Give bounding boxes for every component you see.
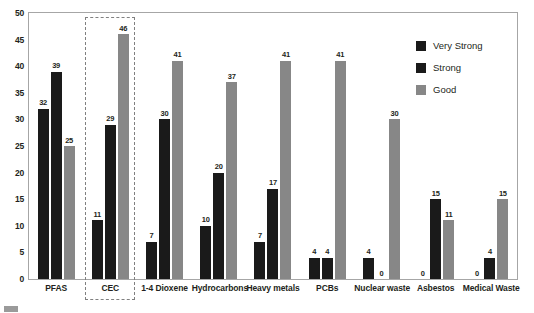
bar-slot: 0 bbox=[376, 13, 387, 279]
bar[interactable] bbox=[200, 226, 211, 279]
x-axis-label-hydrocarbons: Hydrocarbons bbox=[192, 283, 246, 293]
bar-slot: 4 bbox=[322, 13, 333, 279]
bar-value-label: 46 bbox=[119, 24, 127, 33]
bar-slot: 41 bbox=[280, 13, 291, 279]
bar-group-bars: 4030 bbox=[354, 13, 408, 279]
y-axis-tick-40: 40 bbox=[0, 61, 24, 71]
bar-group: 4030 bbox=[354, 13, 408, 279]
bar-group: 73041 bbox=[137, 13, 191, 279]
bar-group: 71741 bbox=[246, 13, 300, 279]
bar-value-label: 0 bbox=[421, 269, 425, 278]
bar-slot: 25 bbox=[64, 13, 75, 279]
bar-value-label: 11 bbox=[445, 210, 453, 219]
bar[interactable] bbox=[335, 61, 346, 279]
bar-slot: 4 bbox=[363, 13, 374, 279]
bar-slot: 11 bbox=[92, 13, 103, 279]
bar-group: 323925 bbox=[29, 13, 83, 279]
bar-slot: 30 bbox=[389, 13, 400, 279]
bar[interactable] bbox=[497, 199, 508, 279]
bar[interactable] bbox=[146, 242, 157, 279]
x-axis-label-pcbs: PCBs bbox=[300, 283, 354, 293]
y-axis-tick-25: 25 bbox=[0, 141, 24, 151]
bar-slot: 41 bbox=[335, 13, 346, 279]
bar-slot: 37 bbox=[226, 13, 237, 279]
bar[interactable] bbox=[226, 82, 237, 279]
bar-group-bars: 112946 bbox=[83, 13, 137, 279]
y-axis-tick-45: 45 bbox=[0, 35, 24, 45]
bar-slot: 7 bbox=[254, 13, 265, 279]
bar-value-label: 10 bbox=[202, 215, 210, 224]
bar-group: 102037 bbox=[192, 13, 246, 279]
bar-value-label: 17 bbox=[269, 178, 277, 187]
legend-item[interactable]: Good bbox=[416, 84, 526, 95]
x-axis-label-heavy-metals: Heavy metals bbox=[246, 283, 300, 293]
bar[interactable] bbox=[430, 199, 441, 279]
bar-group-bars: 73041 bbox=[137, 13, 191, 279]
bar-value-label: 41 bbox=[336, 50, 344, 59]
y-axis-tick-15: 15 bbox=[0, 194, 24, 204]
bar[interactable] bbox=[38, 109, 49, 279]
bar-slot: 10 bbox=[200, 13, 211, 279]
bar-slot: 7 bbox=[146, 13, 157, 279]
bar-group: 112946 bbox=[83, 13, 137, 279]
bar-slot: 32 bbox=[38, 13, 49, 279]
bar-slot: 46 bbox=[118, 13, 129, 279]
bar-slot: 29 bbox=[105, 13, 116, 279]
y-axis: 05101520253035404550 bbox=[0, 12, 24, 280]
bar[interactable] bbox=[389, 119, 400, 279]
bar[interactable] bbox=[51, 72, 62, 279]
bar-slot: 20 bbox=[213, 13, 224, 279]
bar-value-label: 41 bbox=[174, 50, 182, 59]
bar-slot: 30 bbox=[159, 13, 170, 279]
legend-swatch-icon bbox=[416, 41, 426, 51]
bar-value-label: 0 bbox=[475, 269, 479, 278]
bar[interactable] bbox=[118, 34, 129, 279]
y-axis-tick-0: 0 bbox=[0, 274, 24, 284]
bar-group: 4441 bbox=[300, 13, 354, 279]
bar[interactable] bbox=[484, 258, 495, 279]
bar-value-label: 29 bbox=[106, 114, 114, 123]
legend-item[interactable]: Very Strong bbox=[416, 40, 526, 51]
bar-value-label: 7 bbox=[150, 231, 154, 240]
bar[interactable] bbox=[267, 189, 278, 279]
legend-label: Strong bbox=[433, 62, 461, 73]
x-axis-label-nuclear-waste: Nuclear waste bbox=[354, 283, 408, 293]
artifact-block bbox=[4, 306, 18, 312]
bar-value-label: 4 bbox=[325, 247, 329, 256]
y-axis-tick-50: 50 bbox=[0, 8, 24, 18]
bar-value-label: 0 bbox=[379, 269, 383, 278]
legend-item[interactable]: Strong bbox=[416, 62, 526, 73]
bar-group-bars: 102037 bbox=[192, 13, 246, 279]
x-axis-label-pfas: PFAS bbox=[29, 283, 83, 293]
bar-value-label: 7 bbox=[258, 231, 262, 240]
bar[interactable] bbox=[363, 258, 374, 279]
bar[interactable] bbox=[172, 61, 183, 279]
bar[interactable] bbox=[64, 146, 75, 279]
bar-value-label: 4 bbox=[366, 247, 370, 256]
bar-value-label: 20 bbox=[215, 162, 223, 171]
legend-label: Very Strong bbox=[433, 40, 483, 51]
bar-value-label: 4 bbox=[488, 247, 492, 256]
y-axis-tick-5: 5 bbox=[0, 247, 24, 257]
bar[interactable] bbox=[92, 220, 103, 279]
bar-group-bars: 4441 bbox=[300, 13, 354, 279]
bar-slot: 39 bbox=[51, 13, 62, 279]
bar-slot: 4 bbox=[309, 13, 320, 279]
x-axis-label-1-4-dioxene: 1-4 Dioxene bbox=[137, 283, 191, 293]
bar-slot: 41 bbox=[172, 13, 183, 279]
y-axis-tick-30: 30 bbox=[0, 114, 24, 124]
bar[interactable] bbox=[443, 220, 454, 279]
bar[interactable] bbox=[105, 125, 116, 279]
x-axis-label-cec: CEC bbox=[83, 283, 137, 293]
bar[interactable] bbox=[280, 61, 291, 279]
bar[interactable] bbox=[309, 258, 320, 279]
bottom-edge-artifact bbox=[4, 306, 22, 312]
bar[interactable] bbox=[213, 173, 224, 279]
bar-value-label: 39 bbox=[52, 61, 60, 70]
y-axis-tick-35: 35 bbox=[0, 88, 24, 98]
bar-value-label: 30 bbox=[390, 109, 398, 118]
bar[interactable] bbox=[322, 258, 333, 279]
bar[interactable] bbox=[159, 119, 170, 279]
bar[interactable] bbox=[254, 242, 265, 279]
bar-group-bars: 323925 bbox=[29, 13, 83, 279]
